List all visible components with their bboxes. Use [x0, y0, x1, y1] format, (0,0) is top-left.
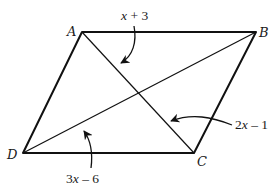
diagonal-AC: [82, 32, 194, 153]
segment-label-ae: x + 3: [120, 8, 148, 23]
diagonal-BD: [23, 32, 256, 153]
segment-label-de: 3x – 6: [66, 171, 99, 185]
vertex-label-c: C: [197, 154, 207, 169]
arrow-ec: [171, 117, 232, 125]
vertex-label-d: D: [6, 147, 18, 162]
parallelogram-diagram: A B C D x + 3 2x – 1 3x – 6: [0, 0, 275, 185]
arrow-de: [84, 131, 92, 168]
vertex-label-a: A: [66, 24, 76, 39]
segment-label-ec: 2x – 1: [235, 117, 268, 132]
vertex-label-b: B: [258, 25, 269, 40]
